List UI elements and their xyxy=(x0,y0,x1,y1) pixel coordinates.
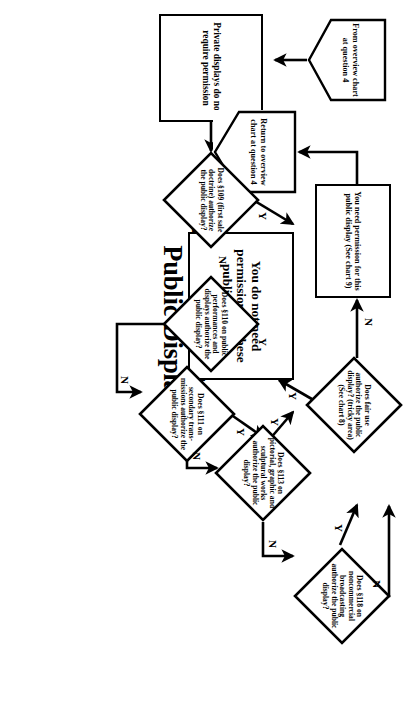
box-private-displays: Private displays do not require permissi… xyxy=(159,14,263,122)
decision-fair-use-label: Does fair use authorize the public displ… xyxy=(337,369,371,442)
box-permission-needed: You need permission for this public disp… xyxy=(315,184,391,298)
branch-label-q42-yes: Y xyxy=(257,338,269,346)
flowchart-canvas: Decision Chart 4: Public Display From ov… xyxy=(0,0,403,713)
branch-label-fairuse-no: N xyxy=(363,318,375,326)
branch-label-q43-no: N xyxy=(191,452,203,460)
decision-4-4: Does §113 on pictorial, graphic and scul… xyxy=(214,424,312,522)
connector-return-to-overview-chart-label: Return to overview chart at question 4 xyxy=(242,110,267,194)
decision-fair-use: Does fair use authorize the public displ… xyxy=(305,356,403,454)
edge-needperm-to-return xyxy=(299,152,357,184)
branch-label-q41-yes: Y xyxy=(257,212,269,220)
branch-label-q41-no: N xyxy=(217,256,229,264)
decision-4-2: Does §110 on public performances and dis… xyxy=(162,275,260,373)
decision-4-3-label: Does §111 on secondary trans- missions a… xyxy=(170,378,204,451)
connector-from-overview-chart: From overview chart at question 4 xyxy=(307,18,387,102)
edge-q44-no xyxy=(263,522,293,556)
branch-label-q42-no: N xyxy=(119,376,131,384)
branch-label-q44-yes: Y xyxy=(269,418,281,426)
page-rotation-wrapper: Decision Chart 4: Public Display From ov… xyxy=(0,0,403,713)
decision-4-5: Does §118 on noncommercial broadcasting … xyxy=(293,547,391,645)
branch-label-q44-no: N xyxy=(267,540,279,548)
branch-label-q45-no: N xyxy=(371,580,383,588)
box-private-displays-label: Private displays do not require permissi… xyxy=(200,19,221,117)
decision-4-4-label: Does §113 on pictorial, graphic and scul… xyxy=(242,437,285,510)
connector-from-overview-chart-label: From overview chart at question 4 xyxy=(334,18,359,102)
branch-label-q45-yes: Y xyxy=(333,524,345,532)
box-permission-needed-label: You need permission for this public disp… xyxy=(344,189,362,293)
branch-label-q43-yes: Y xyxy=(235,428,247,436)
branch-label-fairuse-yes: Y xyxy=(287,392,299,400)
decision-4-2-label: Does §110 on public performances and dis… xyxy=(194,288,228,361)
decision-4-1-label: Does §109 (first sale doctrine) authoriz… xyxy=(198,164,224,237)
decision-4-5-label: Does §118 on noncommercial broadcasting … xyxy=(321,560,364,633)
